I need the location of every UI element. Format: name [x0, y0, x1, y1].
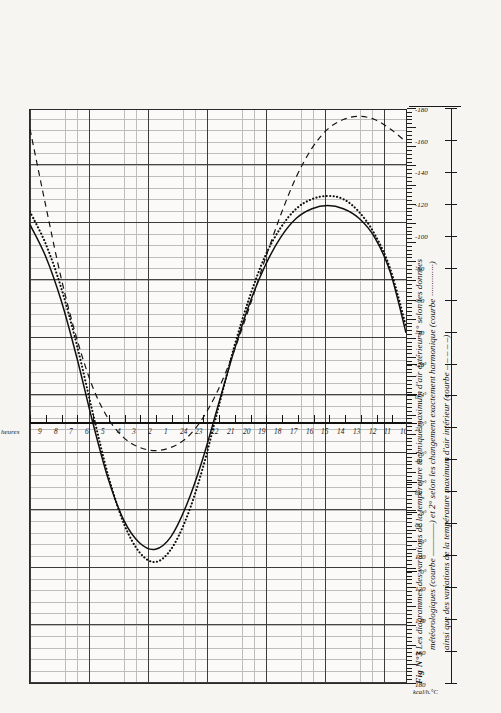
hour-tick-mark — [77, 415, 78, 422]
curve-meteorological — [30, 205, 406, 549]
hour-tick-20: 20 — [243, 427, 250, 436]
hour-tick-5: 5 — [101, 427, 105, 436]
hour-tick-23: 23 — [195, 427, 202, 436]
hour-tick-1: 1 — [164, 427, 168, 436]
degree-minor-tick — [407, 557, 412, 558]
degree-minor-tick — [407, 419, 412, 420]
degree-minor-tick — [407, 384, 412, 385]
degree-minor-tick — [407, 595, 412, 596]
degree-minor-tick — [407, 158, 412, 159]
degree-minor-tick — [407, 649, 412, 650]
degree-minor-tick — [407, 534, 412, 535]
chart-curves — [30, 110, 406, 683]
degree-minor-tick — [407, 618, 412, 619]
degree-minor-tick — [407, 560, 412, 561]
degree-minor-tick — [407, 169, 412, 170]
degree-minor-tick — [407, 334, 412, 335]
degree-minor-tick — [407, 330, 412, 331]
degree-minor-tick — [407, 265, 412, 266]
hour-tick-2: 2 — [148, 427, 152, 436]
hour-tick-mark — [156, 415, 157, 422]
degree-minor-tick — [407, 507, 412, 508]
degree-minor-tick — [407, 219, 412, 220]
degree-minor-tick — [407, 399, 412, 400]
hour-tick-mark — [314, 415, 315, 422]
degree-minor-tick — [407, 288, 412, 289]
degree-minor-tick — [407, 660, 412, 661]
degree-minor-tick — [407, 614, 412, 615]
degree-minor-tick — [407, 583, 412, 584]
degree-minor-tick — [407, 135, 412, 136]
degree-minor-tick — [407, 189, 412, 190]
caption-line-3: ainsi que des variations de la températu… — [441, 335, 451, 650]
hour-tick-mark — [282, 415, 283, 422]
hour-tick-24: 24 — [180, 427, 187, 436]
hour-tick-mark — [251, 415, 252, 422]
degree-minor-tick — [407, 484, 412, 485]
degree-minor-tick — [407, 173, 412, 174]
hour-tick-21: 21 — [227, 427, 234, 436]
degree-minor-tick — [407, 468, 412, 469]
degree-minor-tick — [407, 350, 412, 351]
degree-minor-tick — [407, 442, 412, 443]
degree-minor-tick — [407, 273, 412, 274]
degree-minor-tick — [407, 143, 412, 144]
hour-tick-13: 13 — [353, 427, 360, 436]
hour-tick-8: 8 — [54, 427, 58, 436]
degree-minor-tick — [407, 514, 412, 515]
hour-tick-mark — [219, 415, 220, 422]
hours-axis-label: heures — [1, 428, 19, 436]
degree-minor-tick — [407, 499, 412, 500]
degree-minor-tick — [407, 154, 412, 155]
degree-minor-tick — [407, 495, 412, 496]
degree-minor-tick — [407, 637, 412, 638]
degree-minor-tick — [407, 403, 412, 404]
figure-caption: Fig N°3 Les diagrammes des variations de… — [413, 124, 453, 684]
hour-tick-mark — [266, 415, 267, 422]
hour-tick-mark — [203, 415, 204, 422]
degree-minor-tick — [407, 652, 412, 653]
curve-interior — [30, 116, 406, 450]
degree-minor-tick — [407, 304, 412, 305]
degree-minor-tick — [407, 139, 412, 140]
hour-tick-16: 16 — [306, 427, 313, 436]
hour-tick-mark — [329, 415, 330, 422]
chart-plot-area: 1098765432124232221201918171615141312111… — [29, 109, 407, 684]
kcal-unit-label: kcal/h.°C — [413, 688, 438, 695]
curve-path-solid — [30, 205, 406, 549]
degree-minor-tick — [407, 629, 412, 630]
hour-tick-9: 9 — [38, 427, 42, 436]
degree-minor-tick — [407, 177, 412, 178]
degree-minor-tick — [407, 235, 412, 236]
degree-minor-tick — [407, 488, 412, 489]
degree-minor-tick — [407, 315, 412, 316]
degree-minor-tick — [407, 465, 412, 466]
degree-minor-tick — [407, 476, 412, 477]
caption-line-1: Les diagrammes des variations de la temp… — [414, 259, 424, 649]
degree-minor-tick — [407, 522, 412, 523]
hour-tick-mark — [188, 415, 189, 422]
hour-tick-17: 17 — [290, 427, 297, 436]
hour-tick-15: 15 — [321, 427, 328, 436]
hour-tick-mark — [140, 415, 141, 422]
degree-minor-tick — [407, 231, 412, 232]
hour-tick-mark — [125, 415, 126, 422]
degree-minor-tick — [407, 196, 412, 197]
hour-tick-mark — [93, 415, 94, 422]
degree-minor-tick — [407, 622, 412, 623]
hour-tick-mark — [377, 415, 378, 422]
degree-minor-tick — [407, 407, 412, 408]
degree-minor-tick — [407, 553, 412, 554]
hour-tick-4: 4 — [117, 427, 121, 436]
degree-minor-tick — [407, 675, 412, 676]
degree-minor-tick — [407, 564, 412, 565]
degree-minor-tick — [407, 150, 412, 151]
hour-tick-6: 6 — [85, 427, 89, 436]
degree-minor-tick — [407, 227, 412, 228]
degree-minor-tick — [407, 668, 412, 669]
hour-tick-18: 18 — [274, 427, 281, 436]
degree-minor-tick — [407, 457, 412, 458]
degree-minor-tick — [407, 342, 412, 343]
degree-minor-tick — [407, 426, 412, 427]
degree-minor-tick — [407, 162, 412, 163]
